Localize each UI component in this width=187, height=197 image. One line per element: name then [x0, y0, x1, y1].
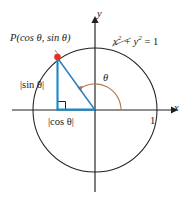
y-axis-label: y — [97, 9, 102, 20]
point-label-leader-line — [55, 50, 58, 54]
point-label: P(cos θ, sin θ) — [10, 33, 70, 44]
unit-circle-diagram: P(cos θ, sin θ) x2 + y2 = 1 |sin θ| |cos… — [0, 0, 187, 197]
equation-equals-one: = 1 — [142, 36, 158, 47]
circle-equation-label: x2 + y2 = 1 — [113, 35, 158, 47]
equation-plus-y: + y — [121, 36, 138, 47]
sin-magnitude-label: |sin θ| — [20, 80, 44, 91]
theta-angle-label: θ — [103, 73, 108, 84]
cos-magnitude-label: |cos θ| — [48, 117, 74, 128]
x-axis-label: x — [174, 103, 179, 114]
diagram-canvas — [0, 0, 187, 197]
unit-tick-label: 1 — [150, 116, 155, 127]
point-p-marker — [54, 54, 61, 61]
